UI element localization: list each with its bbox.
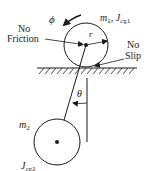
radius-label: r [89, 30, 93, 39]
m1-subscript: 1 [107, 17, 111, 25]
m2-label: m2 [19, 115, 30, 131]
disk1-mass-inertia-label: m1, Jcg1 [100, 8, 130, 24]
j2-label: Jcg2 [21, 156, 36, 171]
no-slip-label-line2: Slip [125, 51, 141, 61]
theta-label: θ [77, 89, 82, 99]
no-friction-label-line2: Friction [7, 34, 39, 44]
no-slip-label-line1: No [127, 40, 139, 50]
ground-hatching [39, 68, 134, 74]
phi-label: ϕ [49, 14, 55, 25]
radius-arrow [86, 41, 107, 45]
pendulum-disk-center-dot [55, 140, 59, 144]
phi-rotation-arrow [64, 15, 81, 25]
theta-angle-arc [73, 103, 87, 104]
j2-subscript: cg2 [25, 165, 35, 171]
j1-subscript: cg1 [120, 17, 130, 25]
ground [37, 68, 137, 74]
m2-subscript: 2 [26, 124, 30, 132]
